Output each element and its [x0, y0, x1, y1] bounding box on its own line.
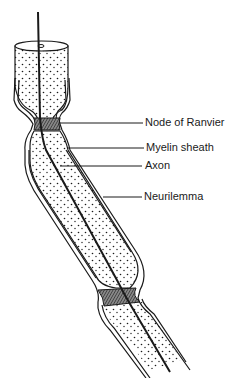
- label-axon: Axon: [145, 159, 170, 172]
- node-of-ranvier-1: [34, 118, 60, 130]
- myelin-segment-bottom: [104, 302, 182, 370]
- label-myelin-sheath: Myelin sheath: [146, 141, 214, 154]
- nerve-fiber-diagram: [0, 0, 240, 378]
- label-neurilemma: Neurilemma: [144, 190, 203, 203]
- label-node-of-ranvier: Node of Ranvier: [145, 116, 225, 129]
